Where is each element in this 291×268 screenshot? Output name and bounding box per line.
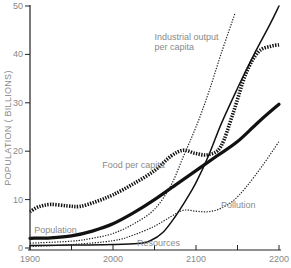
x-tick-label: 2000 bbox=[103, 254, 123, 264]
y-tick-label: 10 bbox=[13, 195, 23, 205]
y-tick-label: 20 bbox=[13, 146, 23, 156]
series-labels: PopulationFood per capitaIndustrial outp… bbox=[34, 32, 255, 248]
series-line-food-per-capita bbox=[30, 45, 279, 212]
x-tick-label: 1900 bbox=[20, 254, 40, 264]
series-line-population bbox=[30, 104, 279, 238]
series-label-industrial-output-per-capita: Industrial outputper capita bbox=[155, 32, 220, 52]
y-tick-label: 0 bbox=[18, 243, 23, 253]
series-label-resources: Resources bbox=[137, 238, 181, 248]
series-label-pollution: Pollution bbox=[221, 200, 256, 210]
y-tick-label: 30 bbox=[13, 98, 23, 108]
x-tick-label: 2100 bbox=[186, 254, 206, 264]
y-tick-label: 50 bbox=[13, 1, 23, 11]
y-tick-label: 40 bbox=[13, 49, 23, 59]
series-line-industrial-output-per-capita bbox=[30, 13, 235, 243]
series-label-food-per-capita: Food per capita bbox=[102, 160, 165, 170]
x-tick-label: 2200 bbox=[269, 254, 289, 264]
y-axis-title: POPULATION ( BILLIONS) bbox=[3, 70, 13, 185]
chart: 010203040501900200021002200 PopulationFo… bbox=[0, 0, 291, 268]
series-label-population: Population bbox=[34, 225, 77, 235]
